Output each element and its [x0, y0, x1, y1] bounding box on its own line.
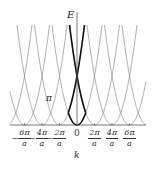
tick-numerator: 6π	[123, 129, 135, 139]
tick-denominator: a	[92, 139, 97, 148]
tick-label: 2πa	[88, 129, 102, 148]
tick-denominator: a	[57, 139, 62, 148]
tick-label: 4πa	[105, 129, 119, 148]
tick-numerator: 2π	[88, 129, 100, 139]
parabola	[105, 25, 147, 125]
tick-denominator: a	[127, 139, 132, 148]
tick-numerator: 4π	[106, 129, 118, 139]
tick-label: −2πa	[53, 129, 67, 148]
minus-sign: −	[12, 135, 19, 143]
tick-denominator: a	[110, 139, 115, 148]
free-electron-parabolas	[10, 25, 146, 125]
gap-annotation: π	[46, 94, 52, 103]
parabola	[10, 25, 32, 124]
tick-denominator: a	[22, 139, 27, 148]
energy-axis-label: E	[67, 10, 74, 20]
tick-label: 6πa	[123, 129, 137, 148]
tick-denominator: a	[40, 139, 45, 148]
minus-sign: −	[47, 135, 54, 143]
k-axis-label: k	[74, 151, 79, 160]
tick-numerator: 2π	[53, 129, 65, 139]
parabola	[122, 25, 146, 125]
origin-label: 0	[74, 128, 80, 138]
minus-sign: −	[29, 135, 36, 143]
